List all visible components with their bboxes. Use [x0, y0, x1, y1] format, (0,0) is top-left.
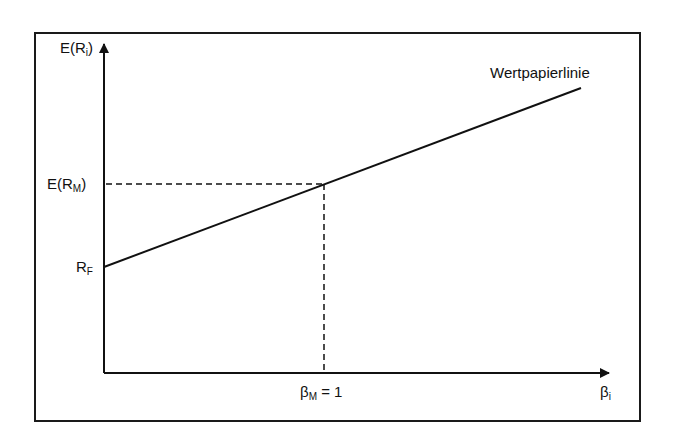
- x-axis-label: βi: [600, 384, 611, 399]
- rf-tick-label: RF: [76, 259, 93, 274]
- beta-m-tick-label: βM = 1: [300, 384, 342, 399]
- y-axis-label: E(Ri): [60, 40, 93, 55]
- erm-tick-label: E(RM): [47, 176, 86, 191]
- line-name-label: Wertpapierlinie: [490, 65, 590, 80]
- security-market-line: [104, 88, 581, 267]
